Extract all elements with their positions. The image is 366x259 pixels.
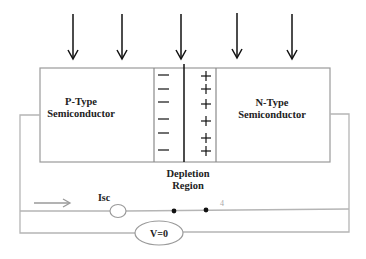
n-type-label-line2: Semiconductor — [238, 109, 306, 120]
n-type-label: N-Type — [255, 97, 288, 108]
down-arrow-icon — [68, 14, 78, 59]
down-arrow-icon — [176, 14, 186, 59]
depletion-label-line2: Region — [172, 180, 204, 191]
current-direction-arrow-icon — [34, 199, 70, 207]
depletion-label: Depletion — [166, 168, 209, 179]
down-arrow-icon — [232, 13, 242, 58]
ammeter-symbol — [110, 205, 126, 218]
down-arrow-icon — [287, 14, 297, 59]
light-arrows — [68, 13, 297, 59]
short-circuit-wire-right — [126, 209, 349, 211]
down-arrow-icon — [117, 14, 127, 59]
node-marker: 4 — [220, 199, 224, 208]
p-type-label: P-Type — [65, 96, 97, 107]
voltmeter-label: V=0 — [150, 228, 168, 239]
isc-label: Isc — [98, 192, 111, 203]
pn-junction-diagram: P-Type Semiconductor N-Type Semiconducto… — [0, 0, 366, 259]
node-dot — [204, 208, 209, 213]
p-type-label-line2: Semiconductor — [47, 108, 115, 119]
node-dot — [172, 209, 177, 214]
